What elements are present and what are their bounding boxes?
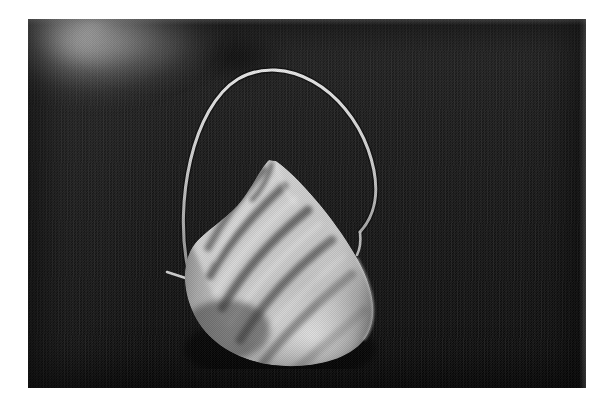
cone-dust-mask <box>168 134 388 369</box>
upper-left-haze-soft <box>68 19 238 99</box>
photograph <box>28 19 586 388</box>
plate-right-edge-band <box>579 19 586 388</box>
mask-illustration <box>168 134 388 369</box>
page-root <box>0 0 609 408</box>
plate-top-edge <box>28 19 586 25</box>
